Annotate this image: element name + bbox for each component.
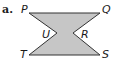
bowtie-polygon (29, 13, 100, 55)
vertex-label-r: R (81, 29, 89, 40)
vertex-label-p: P (21, 4, 28, 15)
vertex-label-u: U (42, 29, 50, 40)
hourglass-figure (0, 0, 113, 64)
vertex-label-t: T (20, 49, 27, 60)
vertex-label-s: S (102, 49, 109, 60)
vertex-label-q: Q (102, 4, 111, 15)
